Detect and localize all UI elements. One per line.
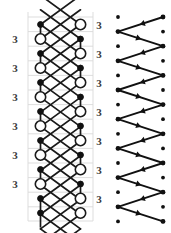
node-open-circle xyxy=(75,135,85,145)
zigzag-vertex xyxy=(161,219,166,224)
node-open-circle xyxy=(75,208,85,218)
zigzag-vertex xyxy=(116,58,121,63)
node-solid-dot xyxy=(78,94,84,100)
lattice-dot xyxy=(116,220,120,224)
lattice-dot xyxy=(161,59,165,63)
multiplicity-label-left-2: 3 xyxy=(12,92,18,103)
zigzag-vertex xyxy=(116,175,121,180)
node-open-circle xyxy=(75,164,85,174)
node-open-circle xyxy=(75,106,85,116)
lattice-dot xyxy=(116,132,120,136)
node-solid-dot xyxy=(38,80,44,86)
lattice-dot xyxy=(116,103,120,107)
node-solid-dot xyxy=(38,109,44,115)
multiplicity-label-right-3: 3 xyxy=(96,106,102,117)
lattice-strands xyxy=(41,0,81,233)
lattice-dot xyxy=(116,190,120,194)
zigzag-vertex xyxy=(116,117,121,122)
lattice-dot xyxy=(116,161,120,165)
lattice-dot xyxy=(161,205,165,209)
zigzag-vertex xyxy=(161,15,166,20)
multiplicity-label-right-2: 3 xyxy=(96,77,102,88)
node-open-circle xyxy=(35,92,45,102)
node-open-circle xyxy=(75,193,85,203)
multiplicity-label-left-0: 3 xyxy=(12,34,18,45)
zigzag-directed-path xyxy=(116,15,166,224)
zigzag-vertex xyxy=(161,73,166,78)
lattice-dot xyxy=(116,74,120,78)
zigzag-vertex xyxy=(161,44,166,49)
node-open-circle xyxy=(35,34,45,44)
zigzag-dot-lattice xyxy=(116,15,165,223)
node-open-circle xyxy=(75,48,85,58)
multiplicity-label-right-1: 3 xyxy=(96,48,102,59)
node-open-circle xyxy=(35,121,45,131)
node-open-circle xyxy=(35,179,45,189)
node-solid-dot xyxy=(38,210,44,216)
node-open-circle xyxy=(35,63,45,73)
node-solid-dot xyxy=(38,138,44,144)
node-solid-dot xyxy=(78,181,84,187)
multiplicity-label-left-4: 3 xyxy=(12,150,18,161)
lattice-dot xyxy=(161,147,165,151)
multiplicity-label-right-5: 3 xyxy=(96,164,102,175)
node-open-circle xyxy=(35,150,45,160)
multiplicity-label-right-6: 3 xyxy=(96,193,102,204)
node-solid-dot xyxy=(78,123,84,129)
figure-canvas: 333333 3333333 xyxy=(0,0,171,233)
multiplicity-label-left-1: 3 xyxy=(12,63,18,74)
node-open-circle xyxy=(75,19,85,29)
multiplicity-label-right-4: 3 xyxy=(96,135,102,146)
node-solid-dot xyxy=(38,51,44,57)
node-open-circle xyxy=(75,77,85,87)
lattice-dot xyxy=(161,30,165,34)
node-solid-dot xyxy=(78,152,84,158)
node-solid-dot xyxy=(38,196,44,202)
lattice-dot xyxy=(116,15,120,19)
multiplicity-label-right-0: 3 xyxy=(96,19,102,30)
lattice-dot xyxy=(161,176,165,180)
lattice-dot xyxy=(116,44,120,48)
zigzag-vertex xyxy=(161,161,166,166)
multiplicity-label-left-3: 3 xyxy=(12,121,18,132)
zigzag-vertex xyxy=(116,29,121,34)
zigzag-vertex xyxy=(161,131,166,136)
lattice-dot xyxy=(161,88,165,92)
node-solid-dot xyxy=(78,65,84,71)
zigzag-vertex xyxy=(161,190,166,195)
multiplicity-label-left-5: 3 xyxy=(12,179,18,190)
zigzag-vertex xyxy=(161,102,166,107)
node-solid-dot xyxy=(38,167,44,173)
zigzag-vertex xyxy=(116,88,121,93)
lattice-dot xyxy=(161,117,165,121)
diagram-svg xyxy=(0,0,171,233)
zigzag-vertex xyxy=(116,204,121,209)
zigzag-vertex xyxy=(116,146,121,151)
node-solid-dot xyxy=(38,22,44,28)
node-solid-dot xyxy=(78,36,84,42)
